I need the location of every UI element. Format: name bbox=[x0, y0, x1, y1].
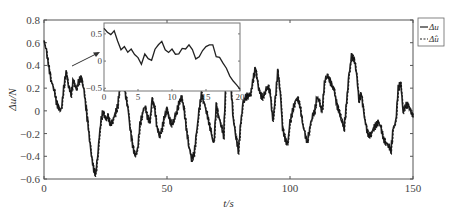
inset-x-tick-label: 0 bbox=[102, 92, 107, 102]
legend-label-estimate: Δ̂u bbox=[428, 34, 439, 44]
x-tick-label: 100 bbox=[282, 182, 299, 194]
x-tick-label: 150 bbox=[405, 182, 422, 194]
pointer-arrow bbox=[72, 52, 100, 66]
x-tick-label: 0 bbox=[41, 182, 47, 194]
inset-x-tick-label: 20 bbox=[236, 92, 246, 102]
y-tick-label: 0 bbox=[35, 105, 41, 117]
legend: ΔuΔ̂u bbox=[418, 18, 444, 46]
x-axis-label: t/s bbox=[223, 197, 233, 209]
y-tick-label: −0.6 bbox=[20, 173, 40, 185]
inset-x-tick-label: 10 bbox=[168, 92, 178, 102]
y-tick-label: 0.6 bbox=[26, 37, 40, 49]
inset-x-tick-label: 5 bbox=[136, 92, 141, 102]
y-tick-label: −0.4 bbox=[20, 150, 40, 162]
x-tick-label: 50 bbox=[162, 182, 174, 194]
inset-plot: 0.50−0.505101520 bbox=[86, 23, 245, 102]
y-tick-label: 0.2 bbox=[26, 82, 40, 94]
inset-y-tick-label: 0 bbox=[98, 56, 103, 66]
inset-y-tick-label: −0.5 bbox=[86, 83, 103, 93]
chart: 0.80.60.40.20−0.2−0.4−0.6050100150t/sΔu/… bbox=[0, 0, 460, 213]
y-tick-label: 0.4 bbox=[26, 59, 40, 71]
y-tick-label: 0.8 bbox=[26, 14, 40, 26]
y-tick-label: −0.2 bbox=[20, 128, 40, 140]
legend-label-actual: Δu bbox=[428, 22, 439, 32]
inset-x-tick-label: 15 bbox=[202, 92, 212, 102]
inset-y-tick-label: 0.5 bbox=[91, 29, 103, 39]
y-axis-label: Δu/N bbox=[6, 88, 18, 112]
